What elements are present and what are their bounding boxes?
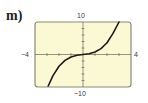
x-min-label: −4 [21,51,29,58]
x-max-label: 4 [134,51,138,58]
y-max-label: 10 [77,12,85,19]
y-min-label: −10 [74,90,86,97]
